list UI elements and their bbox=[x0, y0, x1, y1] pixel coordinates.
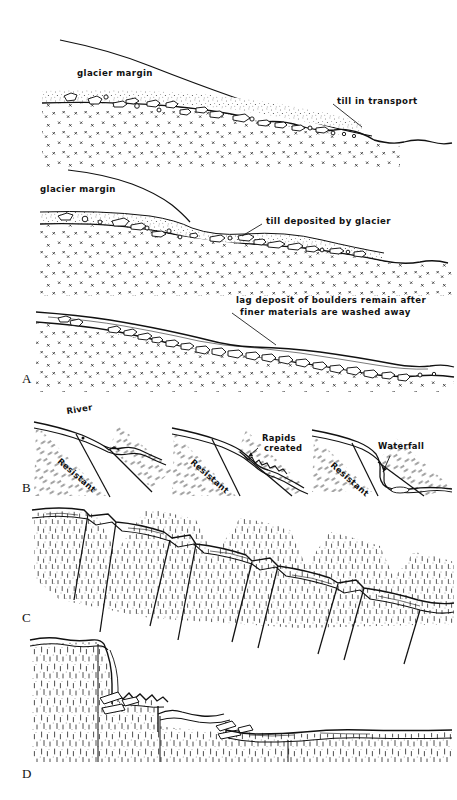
b1-rock-right bbox=[110, 425, 172, 489]
b3-plunge-pool bbox=[391, 487, 409, 493]
lag-deposit-label-line-1: lag deposit of boulders remain after bbox=[236, 295, 427, 305]
till-deposited-label: till deposited by glacier bbox=[266, 216, 391, 226]
panel-letter-d: D bbox=[22, 766, 31, 781]
rapids-label-line-2: created bbox=[264, 443, 302, 453]
panel-b-stage-2: Rapids created Resistant bbox=[172, 428, 308, 496]
geological-figure-plate: glacier margin till in transport bbox=[0, 0, 457, 800]
panel-a-stage-3: lag deposit of boulders remain after fin… bbox=[22, 295, 454, 392]
glacier-margin-label-1: glacier margin bbox=[77, 68, 153, 78]
panel-d: D bbox=[22, 638, 452, 781]
panel-letter-c: C bbox=[22, 610, 31, 625]
b1-river-dot bbox=[82, 437, 85, 440]
lag-deposit-label-line-2: finer materials are washed away bbox=[240, 307, 411, 317]
bedrock-surface-right-1 bbox=[374, 140, 452, 144]
panel-letter-b: B bbox=[22, 480, 31, 495]
panel-a-stage-1: glacier margin till in transport bbox=[42, 40, 452, 168]
d-bench-2-surface-lower bbox=[160, 718, 230, 723]
panel-a-stage-2: glacier margin till deposited by glacier bbox=[40, 170, 452, 296]
lag-deposit-leader bbox=[232, 313, 276, 345]
panel-b-stage-1: River Resistant bbox=[34, 402, 172, 497]
waterfall-label: Waterfall bbox=[378, 441, 424, 451]
river-label: River bbox=[66, 402, 94, 416]
c-rock-mass bbox=[34, 509, 454, 628]
d-bench-2-surface bbox=[158, 710, 224, 716]
till-in-transport-label: till in transport bbox=[337, 96, 418, 106]
glacier-margin-label-2: glacier margin bbox=[40, 184, 116, 194]
figure-canvas: glacier margin till in transport bbox=[0, 0, 457, 800]
panel-letter-a: A bbox=[22, 371, 32, 386]
d-rock-mass bbox=[32, 642, 452, 762]
bedrock-body-3 bbox=[36, 323, 454, 392]
rapids-label-line-1: Rapids bbox=[262, 433, 296, 443]
